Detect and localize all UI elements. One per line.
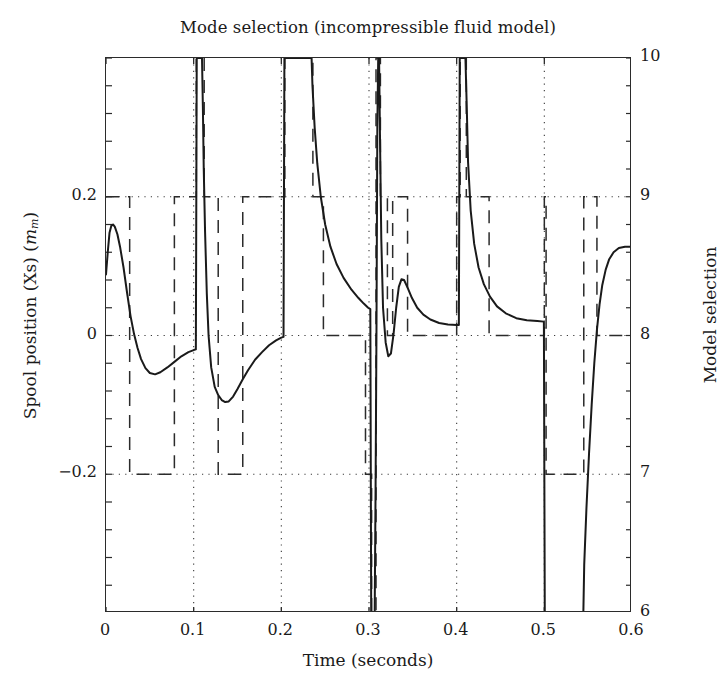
xtick-label: 0.4 (426, 620, 486, 639)
ytick-label-right: 10 (640, 46, 680, 65)
gridlines (106, 58, 631, 612)
ytick-label-left: 0.2 (37, 185, 97, 204)
xtick-label: 0 (75, 620, 135, 639)
ytick-label-left: 0 (37, 324, 97, 343)
chart-title: Mode selection (incompressible fluid mod… (105, 18, 631, 37)
ytick-label-left: −0.2 (37, 462, 97, 481)
y-axis-label-right: Model selection (700, 95, 720, 535)
xtick-label: 0.6 (601, 620, 661, 639)
ytick-label-right: 9 (640, 185, 680, 204)
xtick-label: 0.3 (338, 620, 398, 639)
xtick-label: 0.2 (250, 620, 310, 639)
xtick-label: 0.5 (513, 620, 573, 639)
ytick-label-right: 8 (640, 324, 680, 343)
ytick-label-right: 7 (640, 462, 680, 481)
ytick-label-right: 6 (640, 601, 680, 620)
x-axis-label: Time (seconds) (105, 650, 631, 670)
plot-canvas (106, 58, 631, 612)
xtick-label: 0.1 (163, 620, 223, 639)
y-axis-label-left: Spool position (Xs) (mm) (20, 96, 41, 536)
plot-area (105, 57, 631, 612)
